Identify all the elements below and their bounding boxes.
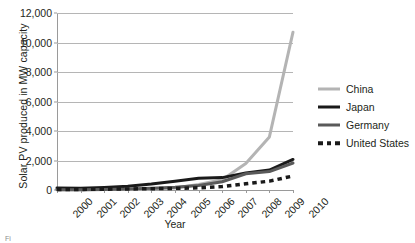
x-tick-mark	[246, 190, 247, 193]
x-tick-mark	[222, 190, 223, 193]
x-tick-label: 2003	[141, 195, 166, 220]
legend-item-japan[interactable]: Japan	[318, 98, 415, 116]
x-tick-label: 2005	[188, 195, 213, 220]
y-tick-label: 4,000	[26, 125, 52, 137]
y-tick-label: 8,000	[26, 66, 52, 78]
x-tick-mark	[269, 190, 270, 193]
legend-label: Germany	[346, 119, 389, 131]
x-tick-label: 2010	[306, 195, 331, 220]
x-tick-label: 2007	[235, 195, 260, 220]
x-tick-label: 2000	[70, 195, 95, 220]
x-tick-label: 2009	[282, 195, 307, 220]
legend-swatch-icon	[318, 134, 340, 152]
legend-swatch-icon	[318, 98, 340, 116]
legend-item-germany[interactable]: Germany	[318, 116, 415, 134]
x-tick-label: 2008	[259, 195, 284, 220]
x-tick-mark	[293, 190, 294, 193]
y-tick-label: 2,000	[26, 155, 52, 167]
page-artifact: Fi	[5, 236, 19, 241]
series-line	[57, 163, 293, 190]
y-tick-label: 0	[46, 184, 52, 196]
y-tick-label: 10,000	[20, 37, 52, 49]
legend-label: United States	[346, 137, 409, 149]
chart-figure: Solar PV produced in MW capacity 02,0004…	[0, 0, 415, 243]
plot-area: 02,0004,0006,0008,00010,00012,000 200020…	[57, 13, 293, 190]
legend-label: Japan	[346, 101, 375, 113]
x-tick-mark	[175, 190, 176, 193]
legend-item-china[interactable]: China	[318, 80, 415, 98]
x-tick-mark	[199, 190, 200, 193]
x-axis-title: Year	[57, 218, 293, 230]
y-tick-label: 6,000	[26, 96, 52, 108]
y-tick-label: 12,000	[20, 7, 52, 19]
x-tick-label: 2001	[93, 195, 118, 220]
x-tick-label: 2006	[211, 195, 236, 220]
series-line	[57, 32, 293, 190]
x-tick-label: 2002	[117, 195, 142, 220]
chart-legend: ChinaJapanGermanyUnited States	[318, 80, 415, 152]
legend-swatch-icon	[318, 116, 340, 134]
legend-swatch-icon	[318, 80, 340, 98]
legend-item-united-states[interactable]: United States	[318, 134, 415, 152]
x-tick-label: 2004	[164, 195, 189, 220]
series-layer	[57, 13, 293, 190]
legend-label: China	[346, 83, 373, 95]
